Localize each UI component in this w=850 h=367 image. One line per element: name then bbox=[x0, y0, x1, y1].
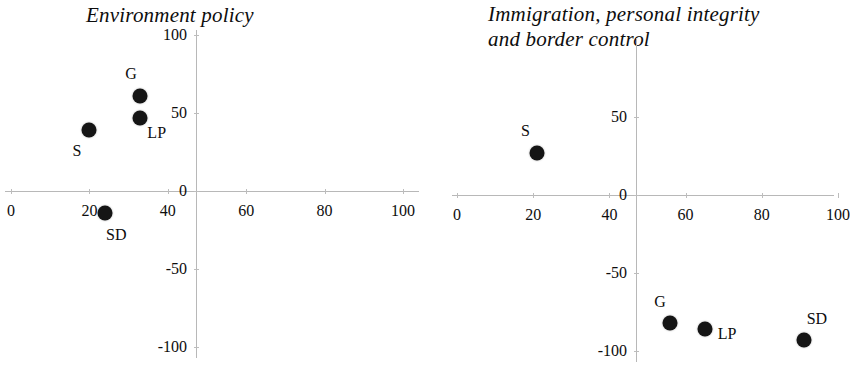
data-point-label: SD bbox=[106, 227, 126, 243]
x-axis-tick-label: 0 bbox=[453, 207, 461, 223]
y-axis-tick bbox=[194, 191, 199, 192]
x-axis-tick bbox=[533, 193, 534, 198]
data-point-label: G bbox=[125, 66, 137, 82]
y-axis-tick-label: 0 bbox=[619, 187, 627, 203]
y-axis-tick-label: 50 bbox=[171, 105, 187, 121]
x-axis-line bbox=[452, 195, 834, 196]
y-axis-tick bbox=[194, 35, 199, 36]
x-axis-tick bbox=[89, 189, 90, 194]
x-axis-tick bbox=[246, 189, 247, 194]
y-axis-tick bbox=[194, 347, 199, 348]
data-point-label: G bbox=[654, 294, 666, 310]
data-point-label: LP bbox=[718, 326, 737, 342]
data-point-marker bbox=[82, 123, 97, 138]
x-axis-tick bbox=[609, 193, 610, 198]
data-point-marker bbox=[133, 88, 148, 103]
x-axis-line bbox=[5, 191, 419, 192]
x-axis-tick bbox=[838, 193, 839, 198]
y-axis-tick bbox=[194, 113, 199, 114]
y-axis-tick-label: 0 bbox=[179, 183, 187, 199]
data-point-marker bbox=[98, 205, 113, 220]
x-axis-tick bbox=[168, 189, 169, 194]
y-axis-tick-label: 50 bbox=[611, 109, 627, 125]
x-axis-tick-label: 20 bbox=[525, 207, 541, 223]
data-point-marker bbox=[133, 110, 148, 125]
x-axis-tick bbox=[686, 193, 687, 198]
y-axis-tick bbox=[634, 273, 639, 274]
data-point-label: S bbox=[72, 143, 81, 159]
chart-panel-environment-policy: Environment policy 020406080100-100-5005… bbox=[0, 0, 424, 367]
data-point-marker bbox=[796, 333, 811, 348]
y-axis-line bbox=[196, 30, 197, 358]
y-axis-tick-label: 100 bbox=[163, 27, 187, 43]
data-point-marker bbox=[697, 322, 712, 337]
y-axis-tick-label: -100 bbox=[598, 343, 627, 359]
y-axis-tick bbox=[634, 351, 639, 352]
x-axis-tick-label: 80 bbox=[317, 203, 333, 219]
x-axis-tick bbox=[762, 193, 763, 198]
x-axis-tick bbox=[457, 193, 458, 198]
x-axis-tick-label: 80 bbox=[754, 207, 770, 223]
y-axis-tick-label: -50 bbox=[606, 265, 627, 281]
chart-panel-immigration-integrity-border: Immigration, personal integrity and bord… bbox=[424, 0, 847, 367]
y-axis-tick-label: -100 bbox=[158, 339, 187, 355]
x-axis-tick-label: 100 bbox=[826, 207, 850, 223]
x-axis-tick bbox=[403, 189, 404, 194]
data-point-marker bbox=[530, 145, 545, 160]
data-point-label: S bbox=[521, 123, 530, 139]
scatter-plot-area: 020406080100-100-50050100GLPSSD bbox=[0, 0, 424, 367]
y-axis-tick bbox=[194, 269, 199, 270]
x-axis-tick-label: 40 bbox=[601, 207, 617, 223]
x-axis-tick-label: 0 bbox=[7, 203, 15, 219]
x-axis-tick-label: 60 bbox=[678, 207, 694, 223]
x-axis-tick bbox=[325, 189, 326, 194]
x-axis-tick-label: 40 bbox=[160, 203, 176, 219]
y-axis-tick bbox=[634, 117, 639, 118]
data-point-label: LP bbox=[147, 125, 166, 141]
y-axis-tick-label: -50 bbox=[166, 261, 187, 277]
x-axis-tick bbox=[11, 189, 12, 194]
scatter-plot-area: 020406080100-100-50050SGLPSD bbox=[424, 0, 847, 367]
data-point-marker bbox=[663, 316, 678, 331]
data-point-label: SD bbox=[807, 311, 827, 327]
x-axis-tick-label: 20 bbox=[81, 203, 97, 219]
y-axis-tick bbox=[634, 195, 639, 196]
y-axis-line bbox=[636, 38, 637, 362]
x-axis-tick-label: 100 bbox=[391, 203, 415, 219]
x-axis-tick-label: 60 bbox=[238, 203, 254, 219]
